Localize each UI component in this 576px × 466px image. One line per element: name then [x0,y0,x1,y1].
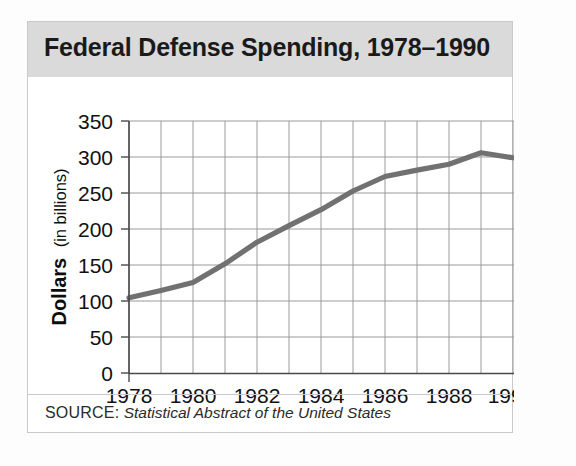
source-citation: Statistical Abstract of the United State… [124,404,391,421]
svg-text:Dollars (in billio: Dollars (in billions) [48,168,70,325]
y-tick-marks [121,121,129,373]
chart-title: Federal Defense Spending, 1978–1990 [44,33,490,62]
y-axis-title: Dollars (in billions) [48,168,70,325]
y-axis-title-light: (in billions) [51,168,69,247]
y-tick-label: 350 [78,110,113,133]
y-tick-label: 50 [90,326,113,349]
y-tick-label: 250 [78,182,113,205]
source-line: SOURCE: Statistical Abstract of the Unit… [45,404,391,422]
plot-area: 350 300 250 200 150 100 50 0 1978 1980 1… [28,77,514,407]
y-tick-label: 0 [101,362,113,385]
y-tick-labels: 350 300 250 200 150 100 50 0 [78,110,113,385]
page-background: Federal Defense Spending, 1978–1990 [0,0,576,466]
title-bar: Federal Defense Spending, 1978–1990 [28,22,512,77]
y-tick-label: 150 [78,254,113,277]
source-bar: SOURCE: Statistical Abstract of the Unit… [28,394,512,432]
y-tick-label: 300 [78,146,113,169]
y-tick-label: 200 [78,218,113,241]
figure-card: Federal Defense Spending, 1978–1990 [27,21,513,433]
line-chart-svg: 350 300 250 200 150 100 50 0 1978 1980 1… [28,77,514,407]
source-prefix: SOURCE: [45,404,119,421]
y-tick-label: 100 [78,290,113,313]
y-axis-title-bold: Dollars [48,258,70,326]
vertical-gridlines [129,121,513,374]
